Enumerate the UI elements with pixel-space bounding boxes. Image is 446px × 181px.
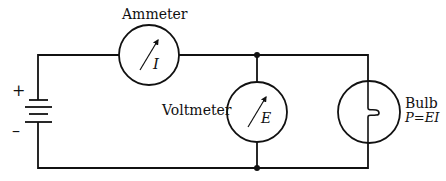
bulb-formula: P=EI	[404, 110, 440, 125]
wire-top-right	[179, 55, 368, 81]
battery-minus-label: –	[12, 121, 20, 140]
voltmeter-label: Voltmeter	[161, 102, 232, 118]
bulb-circle	[338, 81, 400, 143]
wire-bottom	[38, 122, 368, 168]
bulb-label: Bulb	[405, 95, 438, 111]
junction-dot-bottom	[254, 165, 260, 171]
battery-plus-label: +	[12, 81, 25, 100]
ammeter-symbol: I	[152, 55, 160, 73]
voltmeter-symbol: E	[260, 110, 271, 126]
battery	[25, 100, 52, 122]
junction-dot-top	[254, 52, 260, 58]
ammeter-label: Ammeter	[121, 6, 188, 22]
circuit-diagram: + – I Ammeter E Voltmeter Bulb P=EI	[0, 0, 446, 181]
wire-left-top	[38, 55, 119, 100]
